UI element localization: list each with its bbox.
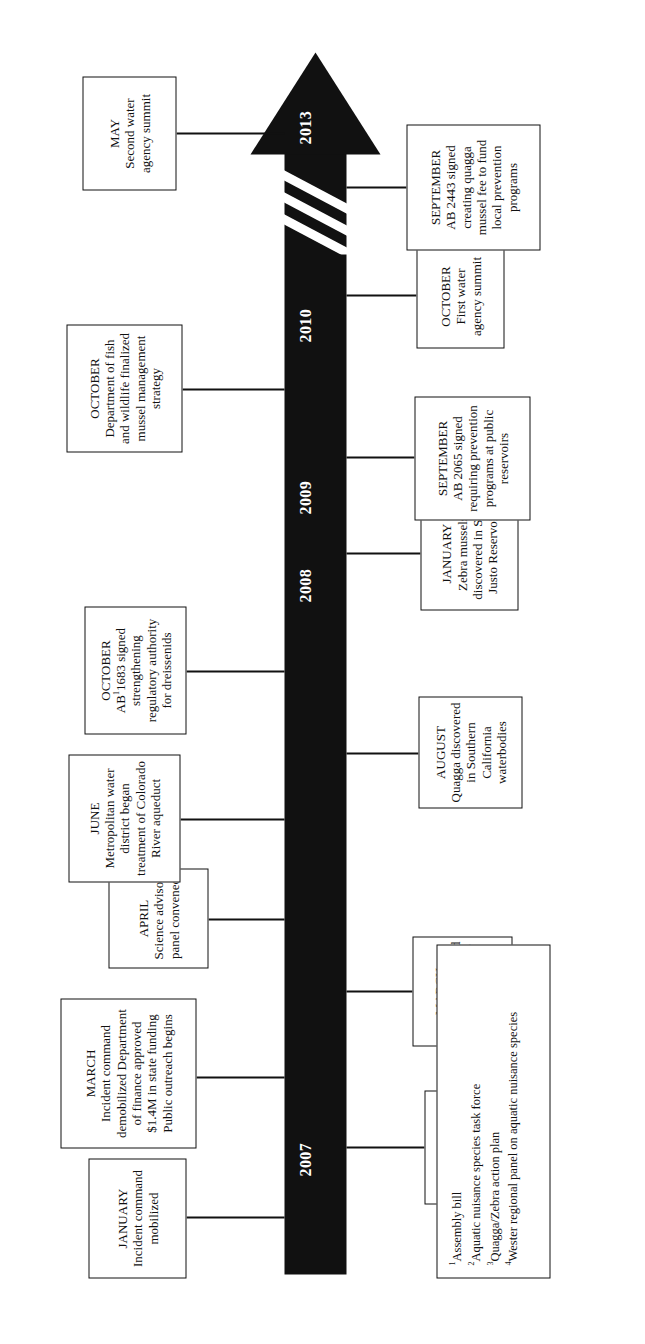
connector-may-2013-summit <box>176 132 284 134</box>
year-label-2013: 2013 <box>297 110 313 144</box>
connector-sep-2013-ab2443 <box>346 186 406 188</box>
event-body: Second water agency summit <box>121 93 151 172</box>
event-box-jan-2007-incident-command-mobilized[interactable]: JANUARY Incident command mobilized <box>88 1158 186 1278</box>
event-month: APRIL <box>135 873 150 963</box>
event-box-oct-2009-dfw-mussel-strategy[interactable]: OCTOBER Department of fish and wildlife … <box>66 324 182 452</box>
event-body: Metropolitan water district began treatm… <box>101 761 162 876</box>
event-box-jun-2007-metropolitan-water-district[interactable]: JUNE Metropolitan water district began t… <box>68 754 180 882</box>
event-box-sep-2013-ab2443[interactable]: SEPTEMBER AB 2443 signed creating quagga… <box>406 124 540 250</box>
event-box-oct-2010-first-water-agency-summit[interactable]: OCTOBER First water agency summit <box>416 244 504 348</box>
event-text: JUNE Metropolitan water district began t… <box>86 759 163 877</box>
event-body: Incident command mobilized <box>129 1169 159 1266</box>
event-month: MAY <box>106 81 121 185</box>
connector-sep-2009-ab2065 <box>346 456 414 458</box>
event-body: Department of fish and wildlife finalize… <box>101 332 162 443</box>
connector-oct-2007-ab1683 <box>186 670 284 672</box>
event-body: AB 2065 signed requiring prevention prog… <box>449 405 510 512</box>
footnote-4: 4Wester regional panel on aquatic nuisan… <box>503 957 522 1265</box>
footnote-1: 1Assembly bill <box>447 957 466 1265</box>
year-label-2010: 2010 <box>297 308 313 342</box>
event-month: SEPTEMBER <box>434 401 449 515</box>
event-body-ab1683: AB11683 signed strengthening regulatory … <box>112 618 173 722</box>
event-text: MAY Second water agency summit <box>106 81 152 185</box>
footnote-2: 2Aquatic nuisance species task force <box>466 957 485 1265</box>
event-text: SEPTEMBER AB 2065 signed requiring preve… <box>434 401 511 515</box>
connector-mar-2007-aqueduct <box>346 990 412 992</box>
event-box-may-2013-second-water-agency-summit[interactable]: MAY Second water agency summit <box>82 76 176 190</box>
footnotes-box: 1Assembly bill 2Aquatic nuisance species… <box>436 944 550 1278</box>
year-label-2009: 2009 <box>297 480 313 514</box>
event-text: OCTOBER AB11683 signed strengthening reg… <box>97 611 174 729</box>
timeline-arrow-shaft <box>284 146 346 1274</box>
event-body: AB 2443 signed creating quagga mussel fe… <box>442 139 518 235</box>
timeline-stage: 2007 2008 2009 2010 2013 JANUARY Inciden… <box>0 0 645 1344</box>
timeline-arrow-head <box>250 52 380 154</box>
event-text: JANUARY Incident command mobilized <box>114 1163 160 1273</box>
connector-oct-2010-summit <box>346 294 416 296</box>
event-text: APRIL Science advisor panel convened <box>135 873 181 963</box>
event-box-mar-2007-incident-command-demobilized[interactable]: MARCH Incident command demobilized Depar… <box>60 998 196 1148</box>
event-text: SEPTEMBER AB 2443 signed creating quagga… <box>427 129 519 245</box>
event-body: First water agency summit <box>452 256 482 335</box>
event-body: Zebra mussels discovered in San Justo Re… <box>454 507 500 599</box>
connector-apr-2007-panel <box>208 918 284 920</box>
event-box-sep-2009-ab2065[interactable]: SEPTEMBER AB 2065 signed requiring preve… <box>414 396 530 520</box>
connector-jan-2007-incident <box>186 1216 284 1218</box>
event-month: SEPTEMBER <box>427 129 442 245</box>
event-month: JUNE <box>86 759 101 877</box>
event-month: AUGUST <box>432 701 447 803</box>
timeline-break-slashes <box>278 164 352 254</box>
connector-aug-2007-socal <box>346 752 418 754</box>
event-body: Quagga discovered in Southern California… <box>447 702 508 802</box>
year-label-2007: 2007 <box>297 1142 313 1176</box>
year-label-2008: 2008 <box>297 568 313 602</box>
event-body: Science advisor panel convened <box>150 877 180 959</box>
footnote-3: 3Quagga/Zebra action plan <box>485 957 504 1265</box>
event-month: OCTOBER <box>97 611 112 729</box>
event-text: OCTOBER First water agency summit <box>437 249 483 343</box>
connector-jun-2007-mwd <box>180 818 284 820</box>
event-text: MARCH Incident command demobilized Depar… <box>82 1003 174 1143</box>
event-month: MARCH <box>82 1003 97 1143</box>
connector-jan-2008-zebra <box>346 552 420 554</box>
infographic-canvas: 2007 2008 2009 2010 2013 JANUARY Inciden… <box>0 0 645 1344</box>
event-month: OCTOBER <box>437 249 452 343</box>
event-text: AUGUST Quagga discovered in Southern Cal… <box>432 701 509 803</box>
connector-oct-2009-dfw <box>182 388 284 390</box>
event-month: OCTOBER <box>86 329 101 447</box>
event-body: Incident command demobilized Department … <box>97 1009 173 1138</box>
event-box-apr-2007-science-advisor-panel[interactable]: APRIL Science advisor panel convened <box>108 868 208 968</box>
event-text: OCTOBER Department of fish and wildlife … <box>86 329 163 447</box>
connector-jan-2007-quagga <box>346 1146 424 1148</box>
connector-mar-2007-demobilized <box>196 1076 284 1078</box>
event-box-aug-2007-quagga-southern-california[interactable]: AUGUST Quagga discovered in Southern Cal… <box>418 696 522 808</box>
event-box-oct-2007-ab1683[interactable]: OCTOBER AB11683 signed strengthening reg… <box>84 606 186 734</box>
event-month: JANUARY <box>114 1163 129 1273</box>
